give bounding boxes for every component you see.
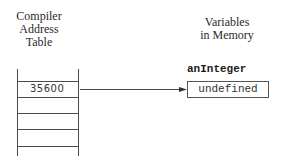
variable-name-label: anInteger [187, 63, 246, 75]
variable-memory-box: undefined [187, 81, 269, 98]
